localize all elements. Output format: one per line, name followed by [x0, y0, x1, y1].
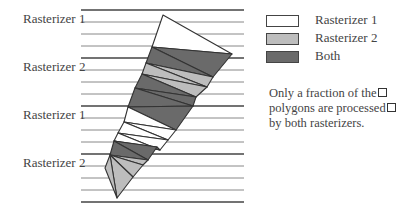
row-label-rasterizer-1: Rasterizer 1	[23, 107, 85, 123]
caption-note: Only a fraction of the polygons are proc…	[269, 86, 396, 131]
row-label-rasterizer-1: Rasterizer 1	[23, 11, 85, 27]
note-line: Only a fraction of the	[269, 86, 377, 100]
note-line: polygons are processed	[269, 101, 386, 115]
row-label-rasterizer-2: Rasterizer 2	[23, 59, 85, 75]
row-label-rasterizer-2: Rasterizer 2	[23, 155, 85, 171]
legend-swatch-dark-gray	[266, 51, 299, 63]
legend-swatch-white	[266, 15, 299, 27]
legend-label: Rasterizer 1	[315, 12, 377, 28]
missing-glyph-icon	[378, 88, 387, 97]
note-line: by both rasterizers.	[269, 116, 364, 130]
legend-swatch-light-gray	[266, 33, 299, 45]
legend-label: Rasterizer 2	[315, 30, 377, 46]
missing-glyph-icon	[387, 103, 396, 112]
legend-label: Both	[315, 48, 340, 64]
